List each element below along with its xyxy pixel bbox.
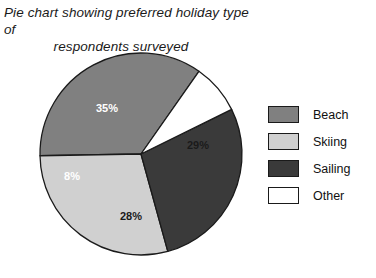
legend-item-skiing[interactable]: Skiing xyxy=(268,128,351,155)
legend-label-sailing: Sailing xyxy=(313,162,351,176)
pie-chart-figure: Pie chart showing preferred holiday type… xyxy=(0,0,376,278)
pie-slice-value-skiing: 29% xyxy=(187,139,209,151)
legend-label-skiing: Skiing xyxy=(313,135,347,149)
pie-svg: 35%29%8%28% xyxy=(0,0,260,278)
pie-slice-value-sailing: 8% xyxy=(64,170,80,182)
legend-item-other[interactable]: Other xyxy=(268,182,351,209)
legend-swatch-sailing xyxy=(268,160,299,177)
chart-legend: Beach Skiing Sailing Other xyxy=(268,101,351,209)
legend-label-other: Other xyxy=(313,189,344,203)
legend-item-beach[interactable]: Beach xyxy=(268,101,351,128)
legend-swatch-beach xyxy=(268,106,299,123)
pie-slice-value-other: 28% xyxy=(120,210,142,222)
legend-swatch-other xyxy=(268,187,299,204)
pie-plot-area: 35%29%8%28% xyxy=(0,0,260,278)
legend-label-beach: Beach xyxy=(313,108,348,122)
pie-slice-value-beach: 35% xyxy=(96,102,118,114)
legend-item-sailing[interactable]: Sailing xyxy=(268,155,351,182)
legend-swatch-skiing xyxy=(268,133,299,150)
pie-slice-group xyxy=(40,53,242,255)
